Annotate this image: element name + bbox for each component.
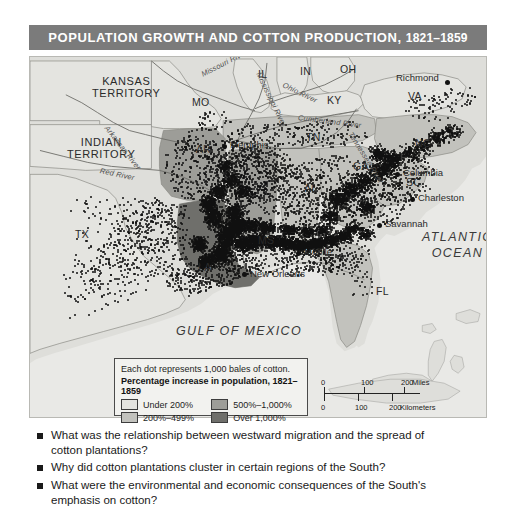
legend-swatch-2	[121, 412, 138, 423]
scale-label-miles-1: 100	[361, 378, 374, 387]
bullet-square-icon	[37, 433, 43, 439]
question-text-2: What were the environmental and economic…	[51, 478, 455, 508]
scale-tick-km-1	[358, 394, 359, 401]
map-page: POPULATION GROWTH AND COTTON PRODUCTION,…	[0, 0, 516, 511]
city-marker-charleston	[410, 197, 415, 202]
bullet-square-icon	[37, 483, 43, 489]
legend-dot-note: Each dot represents 1,000 bales of cotto…	[121, 364, 301, 374]
bullet-square-icon	[37, 465, 43, 471]
legend-swatch-3	[211, 412, 228, 423]
city-marker-savannah	[377, 223, 382, 228]
question-item: Why did cotton plantations cluster in ce…	[29, 460, 489, 475]
scale-tick-km-0	[324, 394, 325, 401]
scale-tick-miles-1	[364, 387, 365, 394]
scale-tick-miles-2	[404, 387, 405, 394]
map-title-bar: POPULATION GROWTH AND COTTON PRODUCTION,…	[29, 25, 487, 50]
question-text-0: What was the relationship between westwa…	[51, 428, 455, 458]
legend-label-0: Under 200%	[143, 400, 193, 410]
question-item: What was the relationship between westwa…	[29, 428, 489, 458]
city-marker-richmond	[445, 80, 450, 85]
legend-item-2: 200%–499%	[121, 412, 203, 423]
city-marker-new-orleans	[242, 272, 247, 277]
legend-swatch-0	[121, 399, 138, 410]
legend-label-1: 500%–1,000%	[233, 400, 292, 410]
legend-swatch-1	[211, 399, 228, 410]
scale-unit-miles: Miles	[412, 378, 430, 387]
scale-label-km-1: 100	[355, 403, 368, 412]
question-text-1: Why did cotton plantations cluster in ce…	[51, 460, 385, 475]
page-title: POPULATION GROWTH AND COTTON PRODUCTION,…	[48, 30, 467, 45]
city-marker-memphis	[222, 144, 227, 149]
title-main: POPULATION GROWTH AND COTTON PRODUCTION,	[48, 30, 401, 45]
legend-label-2: 200%–499%	[143, 413, 194, 423]
legend-swatch-grid: Under 200%500%–1,000%200%–499%Over 1,000…	[121, 399, 301, 423]
scale-tick-km-2	[392, 394, 393, 401]
city-marker-columbia	[395, 172, 400, 177]
scale-label-miles-0: 0	[321, 378, 325, 387]
city-marker-mobile	[296, 251, 301, 256]
question-item: What were the environmental and economic…	[29, 478, 489, 508]
scale-tick-miles-0	[324, 387, 325, 394]
legend-label-3: Over 1,000%	[233, 413, 286, 423]
legend-item-0: Under 200%	[121, 399, 203, 410]
discussion-questions: What was the relationship between westwa…	[29, 428, 489, 510]
map-scale-bar: 0100200Miles0100200Kilometers	[322, 378, 426, 414]
legend-item-1: 500%–1,000%	[211, 399, 301, 410]
legend-heading: Percentage increase in population, 1821–…	[121, 376, 301, 396]
scale-unit-kilometers: Kilometers	[400, 403, 435, 412]
scale-label-km-0: 0	[321, 403, 325, 412]
map-legend: Each dot represents 1,000 bales of cotto…	[114, 358, 308, 416]
scale-bar-line	[324, 393, 420, 394]
title-years: 1821–1859	[406, 31, 468, 45]
legend-item-3: Over 1,000%	[211, 412, 301, 423]
